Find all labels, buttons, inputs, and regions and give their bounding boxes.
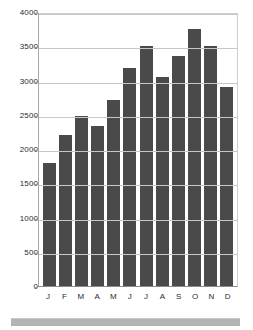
bar-chart: 05001000150020002500300035004000 JFMAMJJ…	[0, 0, 253, 330]
gridline	[39, 185, 237, 186]
bar-slot	[90, 14, 106, 286]
gridline	[39, 151, 237, 152]
footer-band	[11, 318, 240, 326]
y-axis-tick-mark	[34, 287, 38, 288]
bar-slot	[219, 14, 235, 286]
bar-slot	[138, 14, 154, 286]
bar-slot	[122, 14, 138, 286]
x-axis-tick-label: D	[220, 290, 236, 306]
plot-area	[38, 13, 238, 287]
bar-slot	[203, 14, 219, 286]
bar	[172, 56, 185, 286]
y-axis-tick-label: 3000	[4, 78, 38, 86]
bar-series	[39, 14, 237, 286]
gridline	[39, 254, 237, 255]
gridline	[39, 83, 237, 84]
x-axis-tick-label: S	[171, 290, 187, 306]
bar	[59, 135, 72, 286]
gridline	[39, 117, 237, 118]
bar-slot	[154, 14, 170, 286]
bar-slot	[73, 14, 89, 286]
bar-slot	[170, 14, 186, 286]
x-axis-tick-label: F	[56, 290, 72, 306]
bar-slot	[41, 14, 57, 286]
x-axis-tick-label: M	[105, 290, 121, 306]
x-axis-tick-label: J	[138, 290, 154, 306]
bar	[107, 100, 120, 286]
x-axis-tick-label: A	[89, 290, 105, 306]
x-axis-tick-label: A	[154, 290, 170, 306]
gridline	[39, 220, 237, 221]
bar	[188, 29, 201, 286]
x-axis-tick-label: J	[122, 290, 138, 306]
y-axis-tick-label: 2000	[4, 146, 38, 154]
y-axis-tick-label: 3500	[4, 43, 38, 51]
x-axis-tick-label: J	[40, 290, 56, 306]
y-axis-tick-label: 1500	[4, 180, 38, 188]
x-axis-tick-label: M	[73, 290, 89, 306]
x-axis-tick-label: O	[187, 290, 203, 306]
bar-slot	[57, 14, 73, 286]
y-axis-tick-label: 4000	[4, 9, 38, 17]
bar	[43, 163, 56, 286]
bar	[75, 116, 88, 286]
y-axis-tick-label: 0	[4, 283, 38, 291]
y-axis-tick-label: 500	[4, 249, 38, 257]
y-axis: 05001000150020002500300035004000	[0, 0, 38, 330]
x-axis-tick-label: N	[203, 290, 219, 306]
bar-slot	[187, 14, 203, 286]
gridline	[39, 48, 237, 49]
y-axis-tick-label: 2500	[4, 112, 38, 120]
bar-slot	[106, 14, 122, 286]
gridline	[39, 14, 237, 15]
y-axis-tick-label: 1000	[4, 215, 38, 223]
x-axis: JFMAMJJASOND	[38, 290, 238, 306]
